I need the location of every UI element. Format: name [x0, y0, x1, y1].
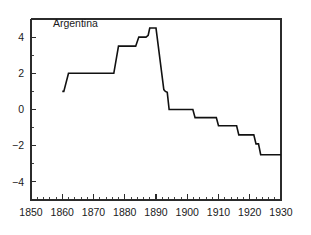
- x-tick-label-1860: 1860: [51, 206, 75, 218]
- data-series-group: [62, 28, 281, 155]
- series-label-argentina: Argentina: [53, 17, 98, 29]
- x-tick-label-1910: 1910: [207, 206, 231, 218]
- series-line-argentina: [62, 28, 281, 155]
- x-tick-label-1870: 1870: [82, 206, 106, 218]
- x-tick-label-1880: 1880: [113, 206, 137, 218]
- line-chart: 420−2−4 18501860187018801890190019101920…: [0, 0, 311, 235]
- y-tick-label-0: 0: [18, 103, 24, 115]
- y-axis-ticks: [31, 19, 36, 200]
- y-axis-tick-labels: 420−2−4: [12, 31, 24, 188]
- x-tick-label-1920: 1920: [238, 206, 262, 218]
- x-tick-label-1890: 1890: [144, 206, 168, 218]
- y-tick-label-4: 4: [18, 31, 24, 43]
- x-tick-label-1930: 1930: [269, 206, 293, 218]
- y-tick-label-2: 2: [18, 67, 24, 79]
- y-tick-label--4: −4: [12, 176, 24, 188]
- plot-frame: [31, 19, 281, 200]
- y-tick-label--2: −2: [12, 139, 24, 151]
- chart-figure: 420−2−4 18501860187018801890190019101920…: [0, 0, 311, 235]
- x-tick-label-1850: 1850: [19, 206, 43, 218]
- x-axis-ticks: [31, 194, 281, 200]
- axes-box: [31, 19, 281, 200]
- x-tick-label-1900: 1900: [176, 206, 200, 218]
- x-axis-tick-labels: 185018601870188018901900191019201930: [19, 206, 293, 218]
